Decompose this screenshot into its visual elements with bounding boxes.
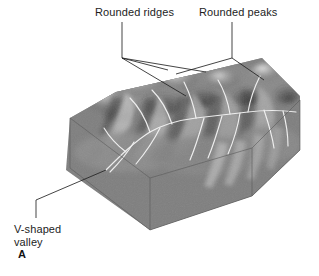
label-rounded-peaks: Rounded peaks	[199, 6, 277, 19]
figure-letter: A	[18, 248, 26, 260]
terrain-relief	[60, 50, 310, 240]
label-v-shaped-valley: V-shaped valley	[14, 223, 61, 248]
block-diagram-figure: Rounded ridges Rounded peaks V-shaped va…	[0, 0, 319, 276]
label-rounded-ridges: Rounded ridges	[95, 6, 174, 19]
leader-rounded-ridges-a	[122, 58, 168, 70]
